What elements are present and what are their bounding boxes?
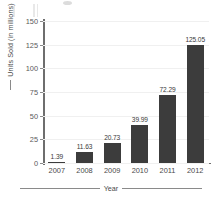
bar	[187, 45, 204, 163]
x-axis-tick-label: 2011	[154, 166, 182, 178]
bar-slot: 125.05	[181, 21, 209, 163]
bar-slot: 1.39	[43, 21, 71, 163]
bar-slot: 72.29	[154, 21, 182, 163]
bar-chart-figure: Units Sold (in millions) 150125100755025…	[0, 0, 217, 200]
bar-value-label: 72.29	[160, 86, 176, 93]
y-axis-tick-label: 150	[26, 17, 38, 26]
x-axis-tick-label: 2007	[43, 166, 71, 178]
y-axis-tick-label: 25	[30, 135, 38, 144]
y-axis-title-group: Units Sold (in millions)	[3, 0, 17, 105]
y-axis-title: Units Sold (in millions)	[6, 3, 15, 77]
x-axis-tick-label: 2008	[71, 166, 99, 178]
plot-area: 1501251007550250 1.3911.6320.7339.9972.2…	[43, 21, 209, 163]
y-axis-tick-label: 50	[30, 111, 38, 120]
y-axis-tick-label: 0	[34, 159, 38, 168]
bar-value-label: 11.63	[77, 143, 93, 150]
y-axis-tick-label: 75	[30, 88, 38, 97]
bar	[131, 125, 148, 163]
x-axis-title-rule-left	[20, 188, 100, 189]
y-axis-tick-label: 125	[26, 40, 38, 49]
crop-artifact-mark	[63, 1, 72, 5]
bar	[104, 143, 121, 163]
crop-artifact-mark	[37, 4, 38, 17]
bars-group: 1.3911.6320.7339.9972.29125.05	[43, 21, 209, 163]
y-axis-tick-mark	[40, 163, 43, 164]
bar-slot: 20.73	[98, 21, 126, 163]
x-axis-tick-label: 2012	[181, 166, 209, 178]
x-axis-title-group: Year	[20, 182, 202, 194]
x-axis-title: Year	[104, 184, 119, 193]
bar	[76, 152, 93, 163]
gridline: 0	[43, 163, 209, 164]
y-axis-title-rule-left	[10, 80, 11, 90]
x-axis-tick-labels: 200720082009201020112012	[43, 166, 209, 178]
bar-slot: 11.63	[71, 21, 99, 163]
bar	[48, 162, 65, 163]
bar-value-label: 1.39	[51, 153, 63, 160]
bar-slot: 39.99	[126, 21, 154, 163]
x-axis-title-rule-right	[122, 188, 202, 189]
bar	[159, 95, 176, 163]
crop-artifact-mark	[33, 4, 35, 17]
x-axis-tick-label: 2010	[126, 166, 154, 178]
bar-value-label: 125.05	[185, 36, 205, 43]
x-axis-tick-label: 2009	[98, 166, 126, 178]
y-axis-tick-label: 100	[26, 64, 38, 73]
bar-value-label: 20.73	[104, 134, 120, 141]
bar-value-label: 39.99	[132, 116, 148, 123]
